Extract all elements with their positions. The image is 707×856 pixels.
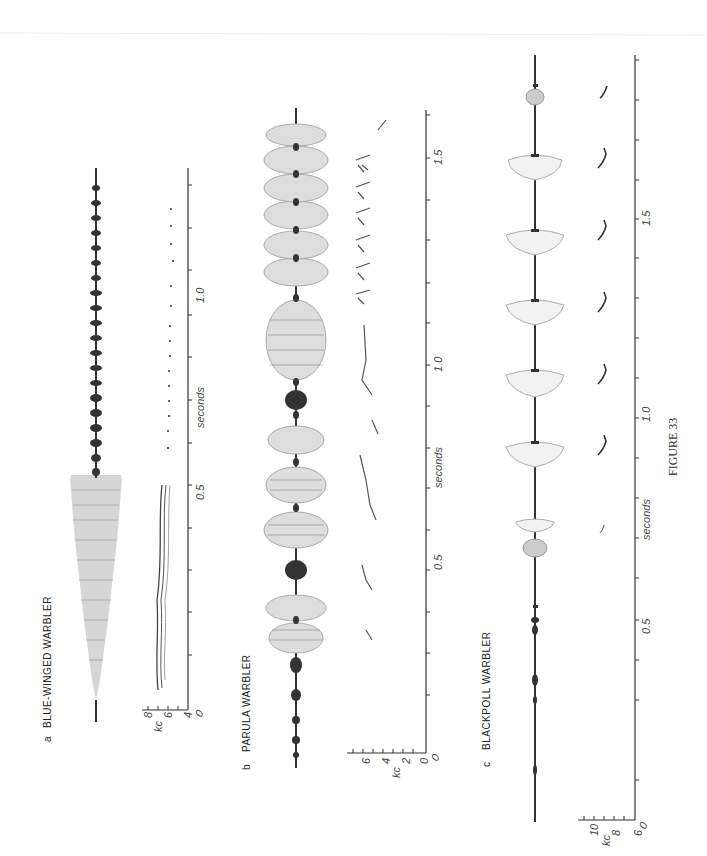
b-x-tick-05: 0.5	[432, 554, 444, 570]
c-x-label: seconds	[640, 499, 652, 540]
a-y-tick-6: 6	[162, 711, 174, 718]
panel-a-letter: a	[42, 736, 53, 742]
b-x-tick-10: 1.0	[432, 356, 444, 372]
c-x-tick-0: 0	[636, 819, 650, 831]
panel-b-axes: 0 0.5 1.0 1.5 seconds 0 2 4 6 kc	[347, 110, 444, 778]
c-x-tick-15: 1.5	[640, 210, 652, 226]
a-x-label: seconds	[194, 387, 206, 428]
c-x-tick-05: 0.5	[640, 618, 652, 634]
b-x-label: seconds	[432, 447, 444, 488]
c-y-label: kc	[600, 835, 612, 847]
b-y-tick-6: 6	[360, 757, 372, 764]
c-y-tick-10: 10	[588, 823, 600, 836]
panel-a-title: BLUE-WINGED WARBLER	[42, 596, 53, 728]
figure-caption: FIGURE 33	[666, 418, 680, 476]
panel-b-waveform	[264, 108, 328, 768]
a-y-tick-8: 8	[142, 711, 154, 718]
b-y-tick-2: 2	[400, 758, 412, 765]
a-x-tick-05: 0.5	[194, 484, 206, 500]
panel-a-waveform	[70, 168, 122, 722]
panel-c: c BLACKPOLL WARBLER	[481, 55, 652, 846]
b-y-tick-0: 0	[418, 757, 430, 764]
c-x-tick-10: 1.0	[640, 406, 652, 422]
b-x-tick-0: 0	[428, 751, 442, 763]
a-x-tick-10: 1.0	[194, 287, 206, 303]
panel-a-axes: 0 0.5 1.0 seconds 4 6 8 kc	[142, 168, 206, 732]
b-x-tick-15: 1.5	[432, 149, 444, 165]
c-y-tick-6: 6	[632, 829, 644, 836]
figure-canvas: a BLUE-WINGED WARBLER	[0, 0, 707, 856]
panel-a-sonagram	[157, 208, 174, 690]
panel-b-title: PARULA WARBLER	[241, 654, 252, 752]
panel-c-axes: 0 0.5 1.0 1.5 seconds 6 8 10 kc	[578, 55, 652, 846]
panel-c-title: BLACKPOLL WARBLER	[481, 632, 492, 750]
a-x-tick-0: 0	[192, 707, 206, 719]
a-y-label: kc	[152, 721, 164, 733]
panel-b: b PARULA WARBLER	[241, 108, 444, 778]
panel-b-letter: b	[241, 764, 252, 770]
panel-b-sonagram	[356, 120, 386, 640]
b-y-tick-4: 4	[380, 758, 392, 764]
a-y-tick-4: 4	[182, 712, 194, 718]
panel-a: a BLUE-WINGED WARBLER	[42, 168, 206, 742]
c-y-tick-8: 8	[610, 829, 622, 836]
panel-c-sonagram	[598, 86, 607, 533]
panel-c-letter: c	[481, 762, 492, 768]
panel-c-waveform	[506, 55, 564, 822]
b-y-label: kc	[390, 767, 402, 779]
